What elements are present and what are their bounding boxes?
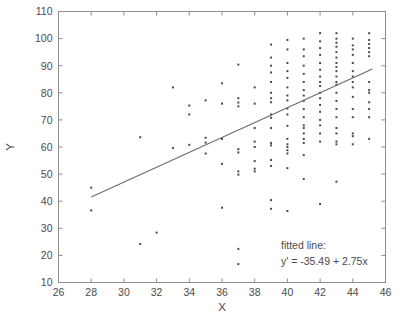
data-point: [270, 65, 272, 67]
data-point: [352, 135, 354, 137]
data-point: [303, 48, 305, 50]
data-point: [270, 101, 272, 103]
y-axis-tick-labels: 102030405060708090100110: [35, 5, 53, 288]
data-point: [90, 209, 92, 211]
data-point: [335, 116, 337, 118]
data-point: [368, 81, 370, 83]
x-axis-tick-labels: 2628303234363840424446: [53, 286, 392, 298]
data-point: [335, 81, 337, 83]
data-point: [221, 82, 223, 84]
y-tick-label: 100: [35, 32, 53, 44]
data-point: [237, 170, 239, 172]
data-point: [237, 102, 239, 104]
data-point: [319, 119, 321, 121]
fitted-line-annotation-label: fitted line:: [281, 239, 326, 251]
data-point: [319, 40, 321, 42]
data-point: [319, 62, 321, 64]
data-point: [270, 92, 272, 94]
data-point: [303, 81, 305, 83]
data-point: [286, 125, 288, 127]
data-point: [172, 147, 174, 149]
data-point: [270, 142, 272, 144]
data-point: [270, 71, 272, 73]
y-tick-label: 10: [41, 276, 53, 288]
data-point: [303, 127, 305, 129]
data-point: [368, 55, 370, 57]
data-point: [335, 38, 337, 40]
data-point: [254, 127, 256, 129]
y-tick-label: 60: [41, 141, 53, 153]
data-point: [303, 116, 305, 118]
x-tick-label: 36: [216, 286, 228, 298]
data-point: [237, 174, 239, 176]
data-point: [303, 65, 305, 67]
x-tick-label: 42: [314, 286, 326, 298]
data-point: [352, 62, 354, 64]
x-tick-label: 26: [53, 286, 65, 298]
data-point: [286, 153, 288, 155]
data-point: [237, 64, 239, 66]
data-point: [237, 263, 239, 265]
data-point: [352, 96, 354, 98]
data-point: [368, 51, 370, 53]
x-tick-label: 40: [282, 286, 294, 298]
data-point: [319, 47, 321, 49]
data-point: [286, 167, 288, 169]
data-point: [319, 111, 321, 113]
y-tick-label: 70: [41, 114, 53, 126]
data-point: [352, 70, 354, 72]
data-point: [286, 210, 288, 212]
y-tick-label: 30: [41, 222, 53, 234]
data-point: [368, 92, 370, 94]
data-point: [254, 146, 256, 148]
data-point: [319, 104, 321, 106]
data-point: [286, 77, 288, 79]
data-point: [237, 105, 239, 107]
data-point: [270, 97, 272, 99]
data-point: [352, 116, 354, 118]
data-point: [286, 95, 288, 97]
data-point: [286, 86, 288, 88]
data-point: [368, 89, 370, 91]
data-point: [270, 208, 272, 210]
data-point: [352, 48, 354, 50]
data-point: [237, 148, 239, 150]
data-point: [352, 81, 354, 83]
data-point: [286, 48, 288, 50]
data-point: [319, 54, 321, 56]
data-point: [286, 62, 288, 64]
data-point: [205, 137, 207, 139]
y-tick-label: 50: [41, 168, 53, 180]
data-point: [335, 32, 337, 34]
data-point: [319, 124, 321, 126]
x-tick-label: 34: [183, 286, 195, 298]
data-point: [156, 232, 158, 234]
x-tick-label: 32: [151, 286, 163, 298]
data-point: [319, 81, 321, 83]
data-point: [303, 73, 305, 75]
data-point: [188, 113, 190, 115]
data-point: [368, 116, 370, 118]
data-point: [303, 154, 305, 156]
data-point: [319, 76, 321, 78]
y-tick-label: 40: [41, 195, 53, 207]
data-point: [319, 203, 321, 205]
data-point: [335, 127, 337, 129]
data-point: [221, 163, 223, 165]
data-point: [352, 44, 354, 46]
data-point: [188, 144, 190, 146]
data-point: [368, 39, 370, 41]
data-point: [319, 132, 321, 134]
data-point: [352, 86, 354, 88]
data-point: [270, 81, 272, 83]
x-tick-label: 28: [85, 286, 97, 298]
data-point: [335, 70, 337, 72]
data-point: [270, 117, 272, 119]
data-point: [303, 132, 305, 134]
data-point: [303, 55, 305, 57]
data-point: [303, 178, 305, 180]
data-point: [303, 138, 305, 140]
data-point: [335, 100, 337, 102]
data-point: [335, 108, 337, 110]
data-points-layer: [90, 32, 370, 265]
